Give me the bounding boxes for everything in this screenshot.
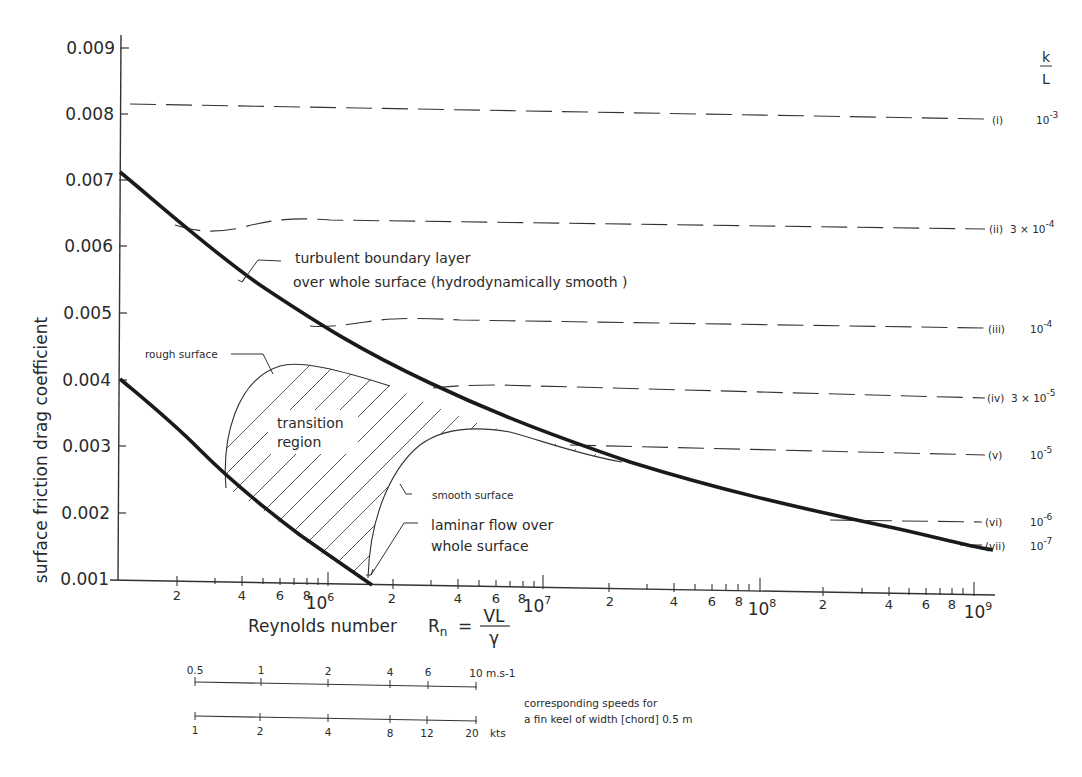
svg-text:4: 4 <box>454 591 462 606</box>
speed-scale-kts: 1 2 4 8 12 20 kts <box>192 712 506 739</box>
rough-surface-label: rough surface <box>145 348 218 360</box>
svg-text:2: 2 <box>819 597 827 612</box>
svg-text:kts: kts <box>490 727 506 739</box>
svg-text:k: k <box>1042 49 1051 65</box>
legend-vi: (vi) <box>985 516 1002 528</box>
y-axis <box>118 35 121 581</box>
svg-text:10-3: 10-3 <box>1036 110 1058 126</box>
svg-text:20: 20 <box>465 727 478 739</box>
turbulent-label-1: turbulent boundary layer <box>295 250 471 266</box>
svg-text:γ: γ <box>489 628 499 648</box>
y-label-0007: 0.007 <box>65 170 114 190</box>
svg-text:8: 8 <box>948 597 956 612</box>
legend-iv: (iv) <box>987 392 1004 404</box>
y-label-0008: 0.008 <box>65 104 114 124</box>
svg-text:=: = <box>458 616 472 636</box>
roughness-line-i <box>130 104 985 119</box>
y-axis-title: surface friction drag coefficient <box>31 317 51 584</box>
y-label-0009: 0.009 <box>66 38 115 58</box>
legend-i: (i) <box>992 114 1003 126</box>
svg-text:4: 4 <box>670 594 678 609</box>
svg-text:4: 4 <box>325 726 332 738</box>
laminar-line <box>120 379 372 585</box>
svg-text:6: 6 <box>492 591 500 606</box>
svg-text:2: 2 <box>606 594 614 609</box>
svg-text:Reynolds number: Reynolds number <box>248 616 397 636</box>
svg-text:1: 1 <box>192 724 199 736</box>
speed-caption-1: corresponding speeds for <box>524 697 658 709</box>
svg-text:2: 2 <box>325 665 332 677</box>
y-tick-labels: 0.009 0.008 0.007 0.006 0.005 0.004 0.00… <box>60 38 115 589</box>
svg-text:108: 108 <box>748 597 777 619</box>
svg-text:4: 4 <box>387 666 394 678</box>
svg-text:10-6: 10-6 <box>1030 512 1053 528</box>
svg-text:VL: VL <box>483 606 505 626</box>
svg-text:m.s-1: m.s-1 <box>486 667 516 679</box>
speed-caption-2: a fin keel of width [chord] 0.5 m <box>524 713 692 725</box>
turbulent-line <box>120 172 993 550</box>
y-label-0004: 0.004 <box>62 370 111 390</box>
x-axis-title: Reynolds number Rn = VL γ <box>248 606 510 648</box>
roughness-line-iii <box>310 319 985 329</box>
laminar-label-1: laminar flow over <box>431 517 553 533</box>
smooth-surface-curve <box>368 429 622 578</box>
transition-label-1: transition <box>277 415 344 431</box>
k-over-l-header: k L <box>1040 49 1052 87</box>
smooth-surface-label: smooth surface <box>432 489 513 501</box>
svg-text:10-4: 10-4 <box>1030 319 1053 335</box>
svg-text:10: 10 <box>469 667 482 679</box>
svg-text:8: 8 <box>387 727 394 739</box>
svg-text:2: 2 <box>257 725 264 737</box>
svg-text:109: 109 <box>964 600 993 622</box>
svg-text:12: 12 <box>420 727 433 739</box>
laminar-label-2: whole surface <box>431 538 529 554</box>
y-label-0005: 0.005 <box>63 303 112 323</box>
y-label-0006: 0.006 <box>64 236 113 256</box>
y-label-0001: 0.001 <box>60 569 109 589</box>
legend-iii: (iii) <box>988 323 1005 335</box>
svg-text:1: 1 <box>258 664 265 676</box>
svg-text:3 × 10-5: 3 × 10-5 <box>1011 388 1056 404</box>
svg-text:6: 6 <box>425 666 432 678</box>
svg-text:10-7: 10-7 <box>1030 536 1052 552</box>
svg-text:3 × 10-4: 3 × 10-4 <box>1010 219 1055 235</box>
svg-text:2: 2 <box>173 588 181 603</box>
svg-text:4: 4 <box>238 588 246 603</box>
svg-text:L: L <box>1042 71 1050 87</box>
roughness-lines <box>130 104 985 545</box>
transition-region-hatch <box>75 330 820 600</box>
y-label-0003: 0.003 <box>62 436 111 456</box>
svg-text:4: 4 <box>885 597 893 612</box>
turbulent-label-2: over whole surface (hydrodynamically smo… <box>293 274 628 290</box>
svg-text:6: 6 <box>922 597 930 612</box>
roughness-line-v <box>570 445 985 455</box>
roughness-line-ii <box>175 219 985 231</box>
legend-v: (v) <box>988 449 1002 461</box>
roughness-legend: (i) 10-3 (ii) 3 × 10-4 (iii) 10-4 (iv) 3… <box>985 110 1058 552</box>
legend-ii: (ii) <box>989 223 1003 235</box>
chart-canvas: 0.009 0.008 0.007 0.006 0.005 0.004 0.00… <box>0 0 1082 777</box>
svg-text:2: 2 <box>388 591 396 606</box>
roughness-line-iv <box>433 385 985 398</box>
legend-vii: (vii) <box>985 540 1005 552</box>
svg-text:107: 107 <box>523 594 552 616</box>
y-label-0002: 0.002 <box>61 503 110 523</box>
svg-text:6: 6 <box>276 588 284 603</box>
svg-text:Rn: Rn <box>428 616 447 639</box>
svg-text:6: 6 <box>708 594 716 609</box>
speed-scale-ms: 0.5 1 2 4 6 10 m.s-1 <box>187 664 516 690</box>
svg-text:10-5: 10-5 <box>1030 445 1052 461</box>
svg-text:0.5: 0.5 <box>187 664 204 676</box>
svg-text:8: 8 <box>735 594 743 609</box>
transition-label-2: region <box>277 434 321 450</box>
svg-text:106: 106 <box>306 591 335 613</box>
